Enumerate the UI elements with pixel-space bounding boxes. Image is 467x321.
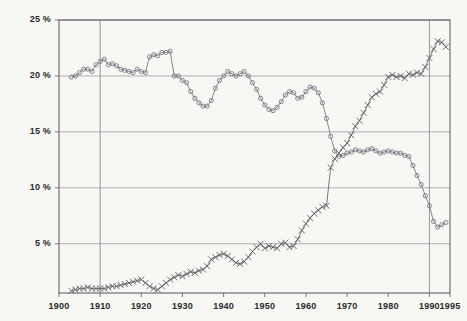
data-point-x: [422, 64, 428, 70]
data-point-x: [295, 236, 301, 242]
data-point-x: [142, 280, 148, 286]
data-point-x: [229, 256, 235, 262]
line-chart: [0, 0, 467, 321]
y-axis-label: 5 %: [0, 238, 51, 248]
data-point-x: [369, 94, 375, 100]
x-axis-label: 1920: [121, 301, 161, 311]
data-point-x: [204, 263, 210, 269]
data-point-x: [138, 277, 144, 283]
plot-frame: [59, 20, 450, 293]
data-point-x: [118, 282, 124, 288]
data-point-x: [315, 207, 321, 213]
data-point-x: [233, 260, 239, 266]
chart-container: 25 %20 %15 %10 %5 %190019101920193019401…: [0, 0, 467, 321]
data-point-x: [332, 156, 338, 162]
data-point-x: [85, 284, 91, 290]
data-point-x: [254, 244, 260, 250]
data-point-x: [431, 46, 437, 52]
data-point-x: [130, 279, 136, 285]
data-point-x: [381, 82, 387, 88]
data-point-x: [348, 132, 354, 138]
data-point-x: [365, 102, 371, 108]
y-axis-label: 25 %: [0, 14, 51, 24]
x-axis-label: 1950: [245, 301, 285, 311]
data-point-x: [200, 267, 206, 273]
y-axis-label: 20 %: [0, 70, 51, 80]
x-axis-label: 1940: [204, 301, 244, 311]
data-point-x: [163, 280, 169, 286]
data-point-x: [443, 44, 449, 50]
x-axis-label: 1930: [162, 301, 202, 311]
y-axis-label: 15 %: [0, 126, 51, 136]
x-axis-label: 1995: [430, 301, 467, 311]
data-point-x: [134, 278, 140, 284]
data-point-x: [155, 287, 161, 293]
x-axis-label: 1900: [39, 301, 79, 311]
x-axis-label: 1980: [368, 301, 408, 311]
x-axis-label: 1960: [286, 301, 326, 311]
data-point-x: [299, 227, 305, 233]
data-point-x: [122, 281, 128, 287]
data-point-x: [356, 118, 362, 124]
y-axis-label: 10 %: [0, 182, 51, 192]
x-axis-label: 1970: [327, 301, 367, 311]
data-point-x: [72, 287, 78, 293]
data-point-x: [303, 221, 309, 227]
data-point-circle: [444, 220, 448, 224]
data-point-x: [311, 211, 317, 217]
data-point-x: [319, 204, 325, 210]
data-point-x: [435, 38, 441, 44]
data-point-x: [344, 140, 350, 146]
data-point-x: [245, 254, 251, 260]
data-point-x: [286, 244, 292, 250]
series-rising-series: [68, 38, 449, 294]
data-point-x: [159, 283, 165, 289]
data-point-x: [352, 123, 358, 129]
data-point-x: [270, 244, 276, 250]
data-point-x: [126, 280, 132, 286]
data-point-x: [361, 110, 367, 116]
x-axis-label: 1910: [80, 301, 120, 311]
data-point-x: [105, 284, 111, 290]
